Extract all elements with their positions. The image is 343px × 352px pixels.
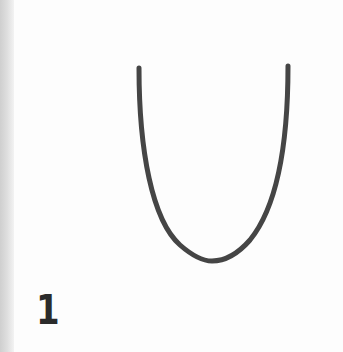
u-curve-path	[139, 66, 288, 261]
card-number-label: 1	[36, 288, 60, 332]
